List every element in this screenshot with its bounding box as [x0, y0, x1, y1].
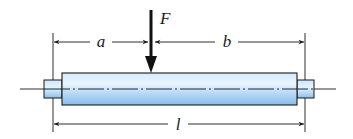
- force-arrow: F: [145, 9, 171, 73]
- label-a: a: [97, 32, 106, 51]
- dimension-b: b: [155, 32, 304, 51]
- label-force: F: [159, 9, 171, 28]
- label-length: l: [176, 115, 181, 134]
- diagram-canvas: a b F l: [0, 0, 353, 139]
- dimension-a: a: [54, 32, 148, 51]
- beam-diagram: a b F l: [0, 0, 353, 139]
- force-arrowhead-icon: [145, 56, 157, 73]
- dimension-l: l: [54, 115, 304, 134]
- label-b: b: [223, 32, 232, 51]
